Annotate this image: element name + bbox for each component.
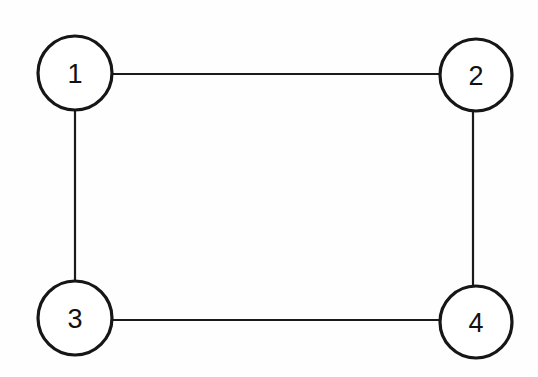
node-label-4: 4 bbox=[468, 308, 483, 338]
graph-diagram: 1 2 3 4 bbox=[0, 0, 538, 377]
graph-node-4[interactable]: 4 bbox=[440, 286, 512, 358]
node-label-3: 3 bbox=[67, 304, 82, 334]
graph-node-1[interactable]: 1 bbox=[38, 36, 112, 110]
graph-node-3[interactable]: 3 bbox=[38, 281, 112, 355]
graph-node-2[interactable]: 2 bbox=[440, 39, 512, 111]
graph-diagram-canvas: 1 2 3 4 bbox=[0, 0, 538, 377]
edge-layer bbox=[75, 74, 473, 320]
node-label-2: 2 bbox=[468, 61, 483, 91]
node-label-1: 1 bbox=[67, 59, 82, 89]
node-layer: 1 2 3 4 bbox=[38, 36, 512, 358]
